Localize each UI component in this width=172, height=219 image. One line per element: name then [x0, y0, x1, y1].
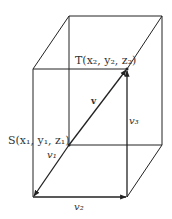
label-v: v: [90, 96, 97, 106]
label-v2: v₂: [74, 201, 84, 212]
bottom-right-connector: [127, 145, 162, 197]
vector-v: [69, 70, 126, 145]
label-v3: v₃: [129, 115, 139, 126]
box-diagram: T(x₂, y₂, z₂) S(x₁, y₁, z₁) v v₁ v₂ v₃: [0, 0, 172, 219]
label-T: T(x₂, y₂, z₂): [75, 54, 136, 67]
point-T: [126, 68, 129, 71]
label-v1: v₁: [47, 149, 57, 160]
top-left-connector: [33, 16, 69, 69]
label-S: S(x₁, y₁, z₁): [8, 134, 70, 147]
